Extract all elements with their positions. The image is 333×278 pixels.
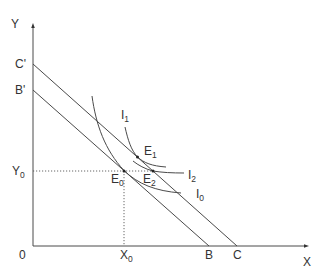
x-axis-arrow-icon xyxy=(304,244,309,248)
label-b: B xyxy=(205,248,213,262)
label-b-prime: B' xyxy=(15,83,25,97)
point-e1 xyxy=(136,156,139,159)
point-e2 xyxy=(152,170,155,173)
axes xyxy=(31,23,309,248)
label-i0: I0 xyxy=(196,187,204,203)
label-e2: E2 xyxy=(143,172,156,188)
label-e0: E0 xyxy=(111,172,124,188)
label-c: C xyxy=(233,248,242,262)
indifference-curve-i0 xyxy=(92,96,181,193)
indifference-curve-i2 xyxy=(133,161,184,173)
label-e1: E1 xyxy=(144,144,157,160)
point-e0 xyxy=(123,170,126,173)
y-axis-arrow-icon xyxy=(31,23,35,28)
label-x0: X0 xyxy=(120,248,133,264)
label-i2: I2 xyxy=(188,168,196,184)
label-c-prime: C' xyxy=(15,57,26,71)
label-y0: Y0 xyxy=(12,164,25,180)
budget-line-cc xyxy=(33,64,237,246)
label-i1: I1 xyxy=(121,108,129,124)
y-axis-label: Y xyxy=(11,17,19,31)
budget-indifference-diagram: Y X 0 C' B' B C Y0 X0 I1 I2 I0 E1 E0 E2 xyxy=(0,0,333,278)
origin-label: 0 xyxy=(19,248,26,262)
x-axis-label: X xyxy=(303,255,311,269)
